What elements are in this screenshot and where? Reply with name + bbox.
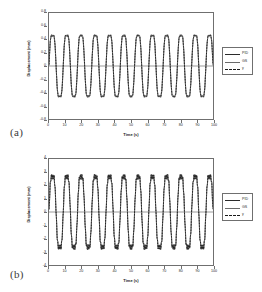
x-tick-label: 70 <box>162 270 166 274</box>
y-tick-mark <box>44 80 47 81</box>
legend-line-swatch-icon <box>225 205 240 211</box>
y-tick-mark <box>44 212 47 213</box>
x-tick-label: 0 <box>47 270 49 274</box>
x-axis-ticks-a: 0102030405060708090100 <box>48 120 214 130</box>
panel-label-a: (a) <box>10 126 23 138</box>
x-tick-label: 60 <box>146 270 150 274</box>
x-tick-label: 30 <box>96 124 100 128</box>
legend-line-swatch-icon <box>225 66 240 72</box>
x-axis-title-a: Time (s) <box>48 132 214 137</box>
y-tick-mark <box>44 93 47 94</box>
legend-row: GS <box>225 204 250 211</box>
y-tick-mark <box>44 266 47 267</box>
y-tick-mark <box>44 253 47 254</box>
legend-line-swatch-icon <box>225 197 240 203</box>
chart-svg-a <box>49 13 213 119</box>
legend-label: GS <box>240 206 247 210</box>
x-tick-label: 20 <box>79 124 83 128</box>
plot-area-b <box>48 158 214 266</box>
y-tick-mark <box>44 239 47 240</box>
legend-row: PID <box>225 51 250 58</box>
x-tick-label: 80 <box>179 124 183 128</box>
plot-area-a <box>48 12 214 120</box>
y-tick-mark <box>44 120 47 121</box>
y-tick-mark <box>44 185 47 186</box>
panel-label-b: (b) <box>10 268 24 280</box>
x-tick-label: 10 <box>63 270 67 274</box>
y-tick-mark <box>44 66 47 67</box>
y-tick-mark <box>44 53 47 54</box>
figure-panel-a: (a) Displacement (mm) 0.80.60.40.20-0.2-… <box>0 0 262 146</box>
x-tick-label: 10 <box>63 124 67 128</box>
x-tick-label: 40 <box>112 124 116 128</box>
y-axis-ticks-a: 0.80.60.40.20-0.2-0.4-0.6-0.8 <box>30 12 47 120</box>
y-tick-mark <box>44 172 47 173</box>
y-tick-mark <box>44 12 47 13</box>
x-tick-label: 40 <box>112 270 116 274</box>
y-tick-mark <box>44 158 47 159</box>
legend-b: PIDGSy <box>222 193 253 221</box>
y-axis-ticks-b: 43210-1-2-3-4 <box>30 158 47 266</box>
x-tick-label: 100 <box>211 124 217 128</box>
legend-label: y <box>240 67 244 71</box>
legend-label: GS <box>240 60 247 64</box>
x-tick-label: 60 <box>146 124 150 128</box>
legend-row: y <box>225 65 250 72</box>
legend-line-swatch-icon <box>225 59 240 65</box>
y-tick-mark <box>44 26 47 27</box>
figure-panel-b: (b) Displacement (mm) 43210-1-2-3-4 0102… <box>0 146 262 292</box>
x-tick-label: 80 <box>179 270 183 274</box>
x-tick-label: 90 <box>195 124 199 128</box>
x-tick-label: 90 <box>195 270 199 274</box>
legend-label: y <box>240 213 244 217</box>
legend-row: PID <box>225 197 250 204</box>
legend-line-swatch-icon <box>225 51 240 57</box>
legend-row: y <box>225 211 250 218</box>
x-tick-label: 20 <box>79 270 83 274</box>
x-tick-label: 70 <box>162 124 166 128</box>
x-axis-title-b: Time (s) <box>48 278 214 283</box>
x-tick-label: 0 <box>47 124 49 128</box>
y-tick-mark <box>44 199 47 200</box>
chart-svg-b <box>49 159 213 265</box>
legend-label: PID <box>240 52 248 56</box>
legend-a: PIDGSy <box>222 47 253 75</box>
x-tick-label: 30 <box>96 270 100 274</box>
y-tick-mark <box>44 226 47 227</box>
legend-label: PID <box>240 198 248 202</box>
x-axis-ticks-b: 0102030405060708090100 <box>48 266 214 276</box>
x-tick-label: 50 <box>129 124 133 128</box>
x-tick-label: 50 <box>129 270 133 274</box>
legend-row: GS <box>225 58 250 65</box>
x-tick-label: 100 <box>211 270 217 274</box>
y-tick-mark <box>44 107 47 108</box>
legend-line-swatch-icon <box>225 212 240 218</box>
y-tick-mark <box>44 39 47 40</box>
